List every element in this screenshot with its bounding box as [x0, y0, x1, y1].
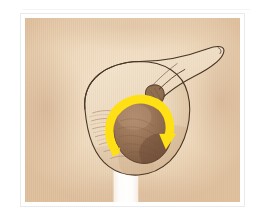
- illustration-canvas: [25, 18, 240, 202]
- header-divider: [22, 9, 250, 10]
- page-header: [0, 0, 265, 12]
- figure-frame: [20, 13, 245, 207]
- testicular-torsion-illustration: [25, 18, 240, 202]
